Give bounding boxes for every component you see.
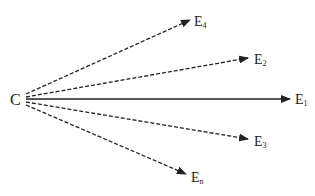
node-e2-sub: 2 [263,59,267,68]
arrow-c-to-e3 [26,102,248,139]
node-e4-base: E [194,14,203,29]
node-e4-sub: 4 [203,21,207,30]
node-e3-sub: 3 [263,141,267,150]
node-e2-base: E [254,52,263,67]
node-en-label: En [191,171,204,186]
node-en-base: E [191,170,200,185]
arrow-c-to-e2 [26,58,248,97]
arrow-c-to-e4 [26,20,190,94]
node-e3-base: E [254,134,263,149]
node-e1-sub: 1 [304,99,308,108]
node-e2-label: E2 [254,53,267,68]
node-e4-label: E4 [194,15,207,30]
node-c-label: C [10,92,21,108]
node-e1-label: E1 [295,93,308,108]
node-e1-base: E [295,92,304,107]
diagram-canvas [0,0,315,196]
node-e3-label: E3 [254,135,267,150]
node-en-sub: n [200,177,204,186]
